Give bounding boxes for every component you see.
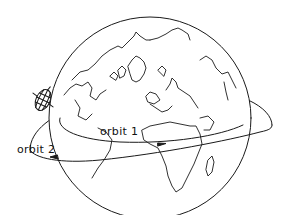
orbit-1-label: orbit 1 bbox=[100, 126, 138, 137]
orbit-2-label: orbit 2 bbox=[17, 144, 55, 155]
earth-orbits-diagram bbox=[0, 0, 286, 215]
globe-outline bbox=[49, 17, 251, 215]
